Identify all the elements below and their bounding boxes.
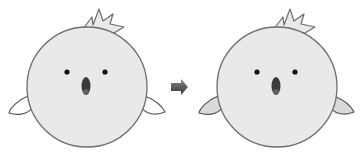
chick-after (199, 9, 354, 147)
beak-highlight (273, 89, 279, 95)
right-eye-icon (102, 69, 107, 74)
beak-highlight (83, 89, 89, 95)
right-arrow-icon (171, 79, 188, 95)
left-eye-icon (254, 69, 259, 74)
chick-comparison-illustration (0, 0, 363, 157)
illustration-canvas (0, 0, 363, 157)
right-eye-icon (292, 69, 297, 74)
left-eye-icon (64, 69, 69, 74)
chick-before (9, 9, 165, 147)
